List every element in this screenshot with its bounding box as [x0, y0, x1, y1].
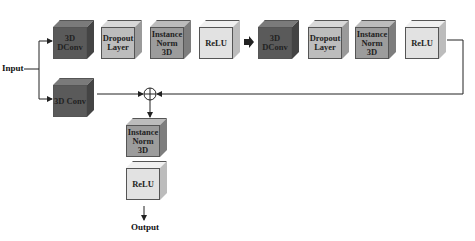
- block-label: ReLU: [199, 27, 233, 59]
- block-label: 3D Conv: [53, 85, 87, 117]
- block-arrow-icon: [244, 36, 254, 48]
- block-label: Instance Norm 3D: [150, 27, 184, 59]
- block-dropout-1: Dropout Layer: [101, 20, 136, 53]
- block-label: ReLU: [405, 27, 439, 59]
- block-label: Instance Norm 3D: [355, 27, 389, 59]
- block-instance-norm-2: Instance Norm 3D: [355, 20, 390, 53]
- block-3d-dconv-2: 3D DConv: [258, 20, 293, 53]
- block-relu-2: ReLU: [405, 20, 440, 53]
- block-label: 3D DConv: [53, 27, 87, 59]
- block-relu-out: ReLU: [126, 161, 161, 194]
- block-3d-conv: 3D Conv: [53, 78, 88, 111]
- block-label: ReLU: [126, 168, 160, 200]
- input-label: Input: [2, 63, 24, 73]
- block-label: 3D DConv: [258, 27, 292, 59]
- block-3d-dconv-1: 3D DConv: [53, 20, 88, 53]
- block-instance-norm-out: Instance Norm 3D: [126, 118, 161, 151]
- block-dropout-2: Dropout Layer: [308, 20, 343, 53]
- block-label: Dropout Layer: [101, 27, 135, 59]
- block-label: Instance Norm 3D: [126, 125, 160, 157]
- block-relu-1: ReLU: [199, 20, 234, 53]
- output-label: Output: [131, 222, 159, 232]
- block-label: Dropout Layer: [308, 27, 342, 59]
- block-instance-norm-1: Instance Norm 3D: [150, 20, 185, 53]
